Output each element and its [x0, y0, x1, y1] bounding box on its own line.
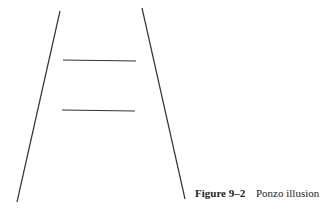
right-converging-line	[142, 8, 185, 199]
ponzo-illusion-figure	[0, 0, 334, 209]
left-converging-line	[17, 11, 60, 202]
upper-horizontal-line	[63, 60, 136, 61]
figure-title: Ponzo illusion	[256, 187, 319, 199]
figure-label: Figure 9–2	[195, 187, 245, 199]
lower-horizontal-line	[62, 110, 135, 111]
figure-caption: Figure 9–2 Ponzo illusion	[195, 187, 319, 199]
